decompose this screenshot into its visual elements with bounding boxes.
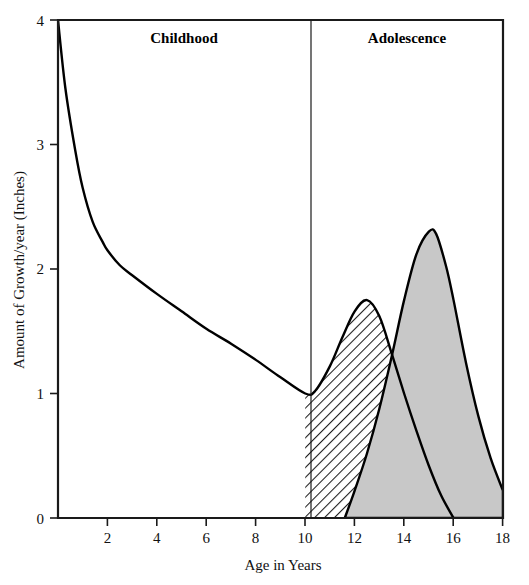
y-tick-label-3: 3	[37, 137, 45, 153]
growth-rate-chart-figure: 0 1 2 3 4 2 4 6 8 10 12 14 16 18 Childho…	[0, 0, 529, 585]
y-tick-label-0: 0	[37, 511, 45, 527]
y-axis-ticks	[50, 20, 58, 518]
phase-label-childhood: Childhood	[150, 30, 218, 46]
x-tick-label-6: 6	[202, 530, 210, 546]
x-axis-title: Age in Years	[244, 557, 321, 573]
phase-label-adolescence: Adolescence	[368, 30, 447, 46]
x-tick-label-2: 2	[104, 530, 112, 546]
y-tick-label-2: 2	[37, 261, 45, 277]
y-tick-label-1: 1	[37, 386, 45, 402]
y-axis-title: Amount of Growth/year (Inches)	[11, 171, 28, 369]
chart-svg: 0 1 2 3 4 2 4 6 8 10 12 14 16 18 Childho…	[0, 0, 529, 585]
x-tick-label-18: 18	[495, 530, 510, 546]
x-axis-ticks	[107, 518, 502, 526]
x-tick-label-16: 16	[446, 530, 462, 546]
y-tick-label-4: 4	[37, 13, 45, 29]
x-tick-label-14: 14	[396, 530, 412, 546]
x-tick-label-8: 8	[252, 530, 260, 546]
x-tick-label-12: 12	[347, 530, 362, 546]
x-tick-label-10: 10	[298, 530, 313, 546]
x-tick-label-4: 4	[153, 530, 161, 546]
